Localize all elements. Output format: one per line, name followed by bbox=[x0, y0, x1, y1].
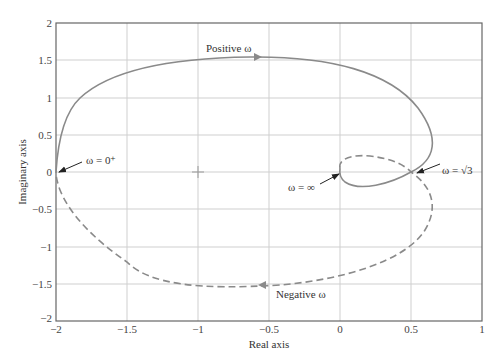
x-tick: −0.5 bbox=[259, 323, 279, 335]
x-axis-label: Real axis bbox=[249, 338, 290, 350]
x-tick: 0.5 bbox=[404, 323, 418, 335]
y-tick: −1 bbox=[40, 241, 52, 253]
grid bbox=[56, 23, 482, 321]
positive-omega-label: Positive ω bbox=[206, 42, 251, 54]
omega-infinity-arrow bbox=[320, 174, 339, 184]
omega-zero-arrow bbox=[59, 162, 82, 172]
y-tick: 1 bbox=[47, 92, 53, 104]
y-tick: −0.5 bbox=[32, 203, 52, 215]
positive-omega-curve bbox=[56, 57, 432, 187]
negative-omega-label: Negative ω bbox=[276, 288, 326, 300]
omega-sqrt3-label: ω = √3 bbox=[442, 164, 473, 176]
y-tick: 1.5 bbox=[38, 54, 52, 66]
y-tick: 0 bbox=[47, 166, 53, 178]
negative-direction-arrow-icon bbox=[258, 281, 266, 289]
omega-zero-label: ω = 0⁺ bbox=[86, 154, 116, 166]
negative-omega-curve bbox=[56, 156, 432, 287]
x-tick: −2 bbox=[50, 323, 62, 335]
nyquist-plot: 2 1.5 1 0.5 0 −0.5 −1 −1.5 −2 −2 −1.5 −1… bbox=[0, 0, 499, 356]
x-tick: −1.5 bbox=[117, 323, 137, 335]
omega-infinity-label: ω = ∞ bbox=[288, 181, 315, 193]
x-tick: −1 bbox=[192, 323, 204, 335]
critical-point-marker bbox=[192, 166, 204, 178]
x-tick: 1 bbox=[479, 323, 485, 335]
x-tick: 0 bbox=[337, 323, 343, 335]
y-tick: 0.5 bbox=[38, 129, 52, 141]
y-tick: 2 bbox=[47, 17, 53, 29]
y-axis-label: Imaginary axis bbox=[16, 139, 28, 205]
y-tick: −1.5 bbox=[32, 278, 52, 290]
